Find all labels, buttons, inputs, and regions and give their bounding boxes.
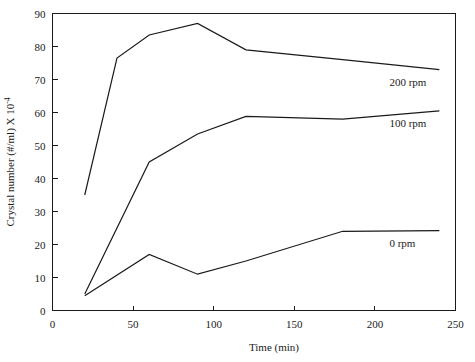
axis-layer: [53, 14, 456, 311]
x-tick-label: 0: [50, 318, 56, 330]
series-label-200-rpm: 200 rpm: [389, 76, 426, 88]
label-layer: 0102030405060708090050100150200250Time (…: [3, 8, 464, 354]
line-chart: 0102030405060708090050100150200250Time (…: [0, 0, 475, 362]
series-layer: [85, 23, 440, 295]
y-tick-label: 0: [40, 305, 46, 317]
x-tick-label: 250: [447, 318, 464, 330]
series-label-100-rpm: 100 rpm: [389, 117, 426, 129]
plot-frame: [53, 14, 456, 311]
y-tick-label: 80: [35, 41, 47, 53]
y-tick-label: 60: [35, 107, 47, 119]
data-series-line: [85, 23, 440, 195]
data-series-line: [85, 111, 440, 294]
y-tick-label: 30: [35, 206, 47, 218]
y-axis-title: Crystal number (#/ml) X 10-4: [3, 97, 17, 226]
x-tick-label: 150: [286, 318, 303, 330]
x-tick-label: 100: [205, 318, 222, 330]
x-tick-label: 200: [367, 318, 384, 330]
y-tick-label: 20: [35, 239, 47, 251]
y-tick-label: 40: [35, 173, 47, 185]
data-series-line: [85, 231, 440, 296]
y-tick-label: 70: [35, 74, 47, 86]
y-tick-label: 90: [35, 8, 47, 20]
chart-container: 0102030405060708090050100150200250Time (…: [0, 0, 475, 362]
y-tick-label: 50: [35, 140, 47, 152]
x-tick-label: 50: [128, 318, 140, 330]
x-axis-title: Time (min): [249, 341, 299, 354]
y-tick-label: 10: [35, 272, 47, 284]
series-label-0-rpm: 0 rpm: [389, 237, 415, 249]
